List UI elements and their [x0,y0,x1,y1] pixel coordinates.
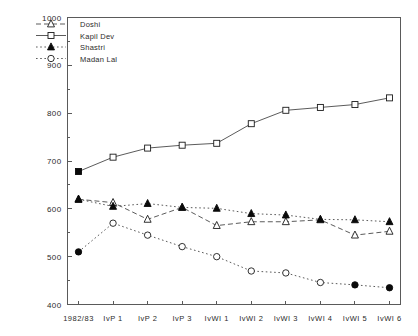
x-axis-group: 1982/83IvP 1IvP 2IvP 3IvWI 1IvWI 2IvWI 3… [63,301,401,323]
x-tick-label: IvP 3 [172,314,191,323]
data-point-open [144,232,150,238]
series-shastri [75,195,393,224]
y-tick-label: 800 [47,109,62,118]
data-point-open [352,102,358,108]
data-point-filled [144,199,151,206]
y-tick-label: 600 [47,205,62,214]
x-tick-label: IvWI 5 [343,314,367,323]
data-point-open [248,218,255,225]
data-point-open [214,140,220,146]
series-group [75,95,393,291]
legend-label: Kapil Dev [80,32,114,41]
line-chart-svg: 4005006007008009001000 1982/83IvP 1IvP 2… [0,0,418,336]
series-kapil-dev [76,95,393,175]
data-point-filled [248,210,255,217]
legend-entry-kapil-dev: Kapil Dev [36,32,114,41]
plot-frame [68,18,401,305]
series-doshi [75,195,393,238]
x-tick-label: IvWI 3 [274,314,298,323]
y-tick-label: 500 [47,253,62,262]
data-point-open [145,145,151,151]
data-point-filled [213,204,220,211]
plot-border [68,18,401,305]
legend-group: DoshiKapil DevShastriMadan Lal [36,20,117,64]
x-tick-label: 1982/83 [63,314,94,323]
data-point-open [248,268,254,274]
data-point-open [48,55,54,61]
data-point-open [179,243,185,249]
x-tick-label: IvP 1 [103,314,122,323]
series-line [79,98,390,172]
chart-figure: 4005006007008009001000 1982/83IvP 1IvP 2… [0,0,418,336]
x-tick-label: IvWI 1 [205,314,229,323]
data-point-filled [48,43,55,50]
y-tick-label: 400 [47,301,62,310]
data-point-filled [317,215,324,222]
series-line [79,199,390,235]
data-point-open [386,227,393,234]
data-point-open [213,221,220,228]
data-point-filled [351,216,358,223]
data-point-open [283,270,289,276]
data-point-filled [75,195,82,202]
data-point-filled [75,249,81,255]
data-point-open [282,218,289,225]
data-point-open [317,104,323,110]
y-tick-label: 900 [47,61,62,70]
legend-label: Madan Lal [80,55,117,64]
data-point-filled [282,211,289,218]
data-point-open [110,154,116,160]
x-tick-label: IvWI 4 [308,314,332,323]
data-point-filled [386,285,392,291]
series-madan-lal [75,220,392,291]
x-tick-label: IvWI 6 [377,314,401,323]
series-line [79,223,390,288]
data-point-filled [76,169,82,175]
x-tick-label: IvP 2 [138,314,157,323]
data-point-open [179,142,185,148]
data-point-open [110,220,116,226]
data-point-open [317,279,323,285]
data-point-open [248,121,254,127]
legend-label: Shastri [80,43,105,52]
legend-label: Doshi [80,20,101,29]
y-tick-label: 700 [47,157,62,166]
x-tick-label: IvWI 2 [239,314,263,323]
data-point-open [48,33,54,39]
legend-entry-shastri: Shastri [36,43,105,52]
series-line [79,199,390,221]
data-point-open [387,95,393,101]
data-point-open [214,253,220,259]
data-point-open [283,107,289,113]
data-point-filled [352,282,358,288]
data-point-filled [386,218,393,225]
